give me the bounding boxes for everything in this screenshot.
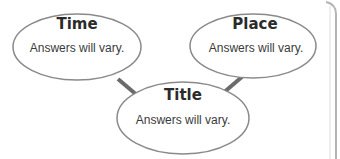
time-label: Time xyxy=(37,15,117,33)
time-text: Answers will vary. xyxy=(17,41,137,55)
title-text: Answers will vary. xyxy=(120,113,246,127)
page-frame xyxy=(326,2,336,159)
place-label: Place xyxy=(215,15,295,33)
place-text: Answers will vary. xyxy=(194,41,318,55)
title-label: Title xyxy=(143,86,223,104)
